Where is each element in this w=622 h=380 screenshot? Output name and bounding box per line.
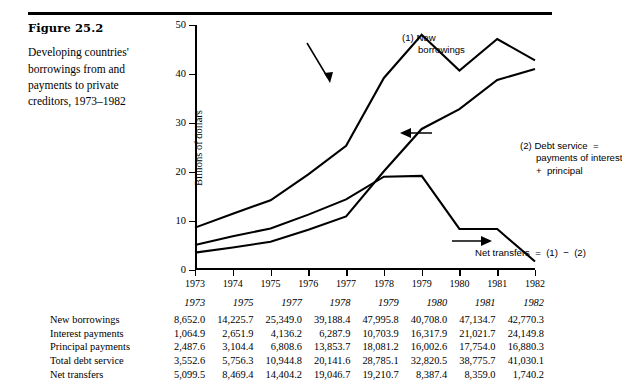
table-column-header: 1980	[399, 296, 447, 313]
table-row-label: Interest payments	[28, 327, 164, 341]
series-line-2	[195, 69, 535, 253]
table-row: Principal payments2,487.63,104.46,808.61…	[28, 340, 544, 354]
table-cell: 24,149.8	[496, 327, 544, 341]
table-cell: 16,317.9	[399, 327, 447, 341]
table-cell: 4,136.2	[254, 327, 302, 341]
table-cell: 1,740.2	[496, 368, 544, 380]
table-cell: 8,359.0	[447, 368, 495, 380]
x-tick-mark	[497, 270, 498, 276]
table-row-label: Total debt service	[28, 354, 164, 368]
y-tick-label: 10	[176, 216, 187, 227]
table-row: Net transfers5,099.58,469.414,404.219,04…	[28, 368, 544, 380]
x-tick-mark	[271, 270, 272, 276]
table-cell: 20,141.6	[302, 354, 350, 368]
table-cell: 47,995.8	[350, 313, 398, 327]
table-row: Total debt service3,552.65,756.310,944.8…	[28, 354, 544, 368]
data-table: 19731975197719781979198019811982 New bor…	[28, 296, 544, 380]
table-cell: 40,708.0	[399, 313, 447, 327]
x-tick-label: 1973	[185, 279, 205, 289]
table-cell: 19,210.7	[350, 368, 398, 380]
table-cell: 14,404.2	[254, 368, 302, 380]
x-tick-label: 1978	[374, 279, 394, 289]
table-column-header: 1979	[350, 296, 398, 313]
table-cell: 10,944.8	[254, 354, 302, 368]
table-cell: 32,820.5	[399, 354, 447, 368]
figure-description: Developing countries' borrowings from an…	[28, 44, 148, 109]
y-tick-label: 30	[176, 118, 187, 129]
annotation-net-transfers: Net transfers = (1) − (2)	[475, 247, 586, 259]
table-cell: 8,469.4	[205, 368, 253, 380]
series-lines	[195, 25, 535, 270]
x-tick-mark	[535, 270, 536, 276]
table-row-label: New borrowings	[28, 313, 164, 327]
x-tick-mark	[233, 270, 234, 276]
table-column-header: 1978	[302, 296, 350, 313]
table-row: Interest payments1,064.92,651.94,136.26,…	[28, 327, 544, 341]
table-cell: 21,021.7	[447, 327, 495, 341]
plot-area: Billions of dollars 01020304050 19731974…	[195, 25, 535, 270]
table-cell: 5,756.3	[205, 354, 253, 368]
table-column-header: 1975	[205, 296, 253, 313]
x-tick-label: 1977	[336, 279, 356, 289]
table-cell: 13,853.7	[302, 340, 350, 354]
table-header-row: 19731975197719781979198019811982	[28, 296, 544, 313]
x-tick-label: 1974	[223, 279, 243, 289]
table-cell: 8,652.0	[164, 313, 205, 327]
table-cell: 39,188.4	[302, 313, 350, 327]
table-cell: 8,387.4	[399, 368, 447, 380]
table-cell: 3,104.4	[205, 340, 253, 354]
table-cell: 18,081.2	[350, 340, 398, 354]
x-tick-mark	[422, 270, 423, 276]
series-line-1	[195, 35, 535, 228]
x-tick-label: 1981	[487, 279, 507, 289]
table-cell: 16,002.6	[399, 340, 447, 354]
figure-number: Figure 25.2	[28, 22, 148, 35]
table-cell: 2,651.9	[205, 327, 253, 341]
y-tick-label: 20	[176, 167, 187, 178]
table-cell: 2,487.6	[164, 340, 205, 354]
table-row-label: Net transfers	[28, 368, 164, 380]
x-tick-label: 1976	[298, 279, 318, 289]
table-cell: 14,225.7	[205, 313, 253, 327]
table-cell: 38,775.7	[447, 354, 495, 368]
table-cell: 42,770.3	[496, 313, 544, 327]
table-column-header: 1981	[447, 296, 495, 313]
x-tick-mark	[384, 270, 385, 276]
table-cell: 41,030.1	[496, 354, 544, 368]
x-tick-label: 1982	[525, 279, 545, 289]
table-cell: 1,064.9	[164, 327, 205, 341]
table-row-label: Principal payments	[28, 340, 164, 354]
table-cell: 16,880.3	[496, 340, 544, 354]
x-tick-mark	[308, 270, 309, 276]
table-cell: 25,349.0	[254, 313, 302, 327]
table-cell: 6,808.6	[254, 340, 302, 354]
table-body: New borrowings8,652.014,225.725,349.039,…	[28, 313, 544, 380]
table-cell: 47,134.7	[447, 313, 495, 327]
chart-area: Billions of dollars 01020304050 19731974…	[150, 18, 550, 286]
x-tick-label: 1980	[449, 279, 469, 289]
table-cell: 3,552.6	[164, 354, 205, 368]
x-tick-label: 1975	[261, 279, 281, 289]
header-rule	[28, 12, 552, 15]
table-row: New borrowings8,652.014,225.725,349.039,…	[28, 313, 544, 327]
x-tick-mark	[346, 270, 347, 276]
table-cell: 17,754.0	[447, 340, 495, 354]
table-corner-cell	[28, 296, 164, 313]
annotation-new-borrowings: (1) New borrowings	[402, 32, 465, 57]
table-cell: 19,046.7	[302, 368, 350, 380]
figure-caption: Figure 25.2 Developing countries' borrow…	[28, 22, 148, 110]
table-cell: 5,099.5	[164, 368, 205, 380]
table-cell: 10,703.9	[350, 327, 398, 341]
annotation-debt-service: (2) Debt service = payments of interest …	[520, 140, 622, 177]
table-cell: 28,785.1	[350, 354, 398, 368]
x-tick-mark	[195, 270, 196, 276]
table-column-header: 1982	[496, 296, 544, 313]
table-column-header: 1977	[254, 296, 302, 313]
x-tick-mark	[459, 270, 460, 276]
x-tick-label: 1979	[412, 279, 432, 289]
y-tick-label: 50	[176, 20, 187, 31]
table-cell: 6,287.9	[302, 327, 350, 341]
y-tick-label: 0	[181, 265, 186, 276]
y-tick-label: 40	[176, 69, 187, 80]
